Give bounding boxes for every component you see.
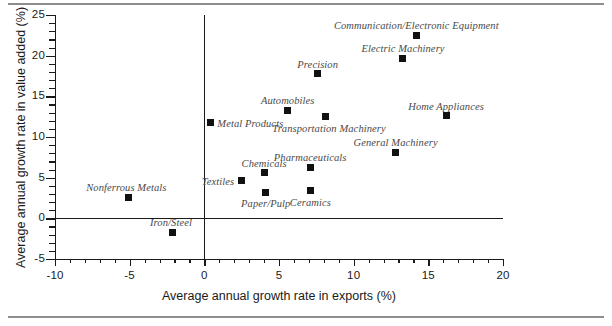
data-point-marker[interactable] [125,194,132,201]
x-axis-major-tick [55,259,56,266]
x-tick-label: 15 [408,269,448,281]
x-axis-minor-tick [189,259,190,263]
data-point-label: Textiles [202,176,235,187]
y-axis-minor-tick [49,72,55,73]
y-axis-major-tick [46,56,55,57]
data-point-marker[interactable] [392,149,399,156]
y-axis-title: Average annual growth rate in value adde… [14,6,28,267]
y-axis-minor-tick [49,235,55,236]
data-point-marker[interactable] [307,187,314,194]
y-axis-major-tick [46,259,55,260]
y-axis-minor-tick [49,23,55,24]
x-axis-minor-tick [473,259,474,263]
data-point-marker[interactable] [261,169,268,176]
data-point-marker[interactable] [399,55,406,62]
x-axis-minor-tick [174,259,175,263]
x-axis-minor-tick [339,259,340,263]
data-point-marker[interactable] [284,107,291,114]
y-axis-minor-tick [49,121,55,122]
x-axis-major-tick [130,259,131,266]
data-point-label: Home Appliances [408,101,484,112]
x-axis-minor-tick [264,259,265,263]
data-point-marker[interactable] [262,189,269,196]
zero-line-horizontal [55,218,503,219]
data-point-label: Precision [297,59,338,70]
y-axis-minor-tick [49,104,55,105]
x-axis-major-tick [354,259,355,266]
data-point-label: Automobiles [261,95,315,106]
zero-line-vertical [204,15,205,259]
x-axis-minor-tick [413,259,414,263]
data-point-label: Ceramics [290,197,331,208]
data-point-label: Nonferrous Metals [86,182,166,193]
x-axis-major-tick [279,259,280,266]
x-axis-minor-tick [85,259,86,263]
data-point-marker[interactable] [169,229,176,236]
data-point-label: Communication/Electronic Equipment [334,20,499,31]
y-axis-major-tick [46,178,55,179]
data-point-marker[interactable] [413,32,420,39]
data-point-marker[interactable] [238,177,245,184]
x-axis-minor-tick [294,259,295,263]
data-point-label: Electric Machinery [361,43,444,54]
x-axis-title: Average annual growth rate in exports (%… [162,289,396,303]
x-tick-label: -5 [110,269,150,281]
y-axis-minor-tick [49,145,55,146]
x-axis-minor-tick [70,259,71,263]
x-axis-minor-tick [100,259,101,263]
data-point-label: Iron/Steel [150,217,192,228]
y-axis-minor-tick [49,210,55,211]
y-axis-minor-tick [49,186,55,187]
x-axis-minor-tick [384,259,385,263]
x-tick-label: -10 [35,269,75,281]
y-axis-major-tick [46,218,55,219]
y-axis-minor-tick [49,39,55,40]
x-axis-minor-tick [398,259,399,263]
y-axis-major-tick [46,15,55,16]
x-tick-label: 10 [334,269,374,281]
x-axis-minor-tick [234,259,235,263]
x-axis-minor-tick [160,259,161,263]
y-axis-minor-tick [49,48,55,49]
y-axis-minor-tick [49,113,55,114]
x-tick-label: 5 [259,269,299,281]
x-tick-label: 0 [184,269,224,281]
data-point-marker[interactable] [322,113,329,120]
x-axis-minor-tick [458,259,459,263]
y-axis-minor-tick [49,153,55,154]
y-axis-minor-tick [49,243,55,244]
y-axis-major-tick [46,96,55,97]
x-axis-minor-tick [115,259,116,263]
x-axis-minor-tick [219,259,220,263]
x-axis-minor-tick [309,259,310,263]
y-axis-minor-tick [49,251,55,252]
y-axis-spine [55,15,56,259]
y-axis-minor-tick [49,129,55,130]
x-axis-minor-tick [369,259,370,263]
y-axis-minor-tick [49,31,55,32]
y-axis-minor-tick [49,80,55,81]
y-axis-minor-tick [49,226,55,227]
x-tick-label: 20 [483,269,523,281]
data-point-marker[interactable] [443,112,450,119]
data-point-marker[interactable] [207,119,214,126]
y-axis-minor-tick [49,88,55,89]
data-point-marker[interactable] [314,70,321,77]
x-axis-minor-tick [249,259,250,263]
y-axis-minor-tick [49,170,55,171]
x-axis-minor-tick [488,259,489,263]
data-point-label: General Machinery [353,137,437,148]
x-axis-minor-tick [324,259,325,263]
y-axis-minor-tick [49,161,55,162]
x-axis-major-tick [503,259,504,266]
x-axis-major-tick [204,259,205,266]
data-point-marker[interactable] [307,164,314,171]
data-point-label: Transportation Machinery [272,123,386,134]
data-point-label: Paper/Pulp [241,198,290,209]
figure-container: -10-505101520-50510152025Nonferrous Meta… [0,0,612,326]
y-axis-minor-tick [49,194,55,195]
x-axis-major-tick [428,259,429,266]
y-axis-minor-tick [49,202,55,203]
scatter-plot: -10-505101520-50510152025Nonferrous Meta… [0,0,612,326]
y-axis-minor-tick [49,64,55,65]
